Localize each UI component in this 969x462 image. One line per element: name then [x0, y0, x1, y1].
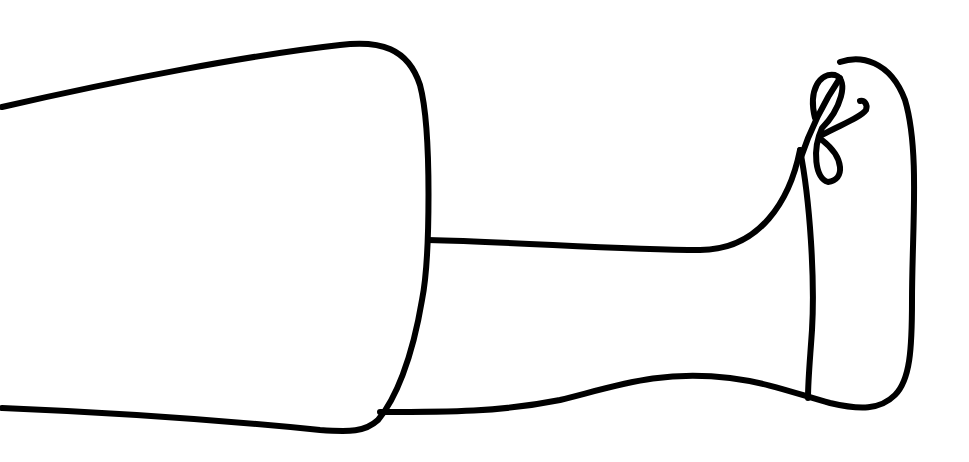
leg-drawing — [0, 0, 969, 462]
shoe-ankle-line — [800, 150, 813, 398]
leg-top-outline — [428, 150, 800, 250]
trouser-outline — [2, 44, 429, 431]
